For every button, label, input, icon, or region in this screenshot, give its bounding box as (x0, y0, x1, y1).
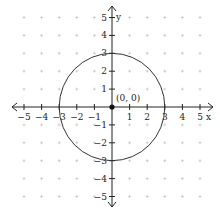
x-tick-label: 1 (127, 112, 133, 122)
grid-dot (75, 195, 78, 198)
y-tick-label: 5 (101, 13, 107, 23)
grid-dot (40, 141, 43, 144)
grid-dot (23, 141, 26, 144)
grid-dot (75, 123, 78, 126)
y-tick-label: −4 (94, 174, 108, 184)
y-tick-label: 4 (101, 30, 107, 40)
grid-dot (75, 141, 78, 144)
grid-dot (146, 34, 149, 37)
grid-dot (75, 88, 78, 91)
grid-dot (40, 88, 43, 91)
grid-dot (181, 177, 184, 180)
grid-dot (93, 52, 96, 55)
grid-dot (199, 177, 202, 180)
grid-dot (128, 177, 131, 180)
grid-dot (181, 16, 184, 19)
grid-dot (146, 52, 149, 55)
grid-dot (58, 70, 61, 73)
grid-dot (40, 52, 43, 55)
grid-dot (199, 123, 202, 126)
grid-dot (181, 34, 184, 37)
grid-dot (199, 195, 202, 198)
coordinate-plane: −5−4−3−2−112345−5−4−3−2−112345 (0, 0) x … (0, 0, 220, 210)
grid-dot (146, 159, 149, 162)
grid-dot (93, 16, 96, 19)
grid-dot (199, 70, 202, 73)
center-point-label: (0, 0) (116, 93, 140, 103)
grid-dot (23, 195, 26, 198)
grid-dot (146, 177, 149, 180)
x-tick-label: 4 (180, 112, 186, 122)
center-point (109, 104, 114, 109)
grid-dot (181, 195, 184, 198)
grid-dot (199, 159, 202, 162)
grid-dot (75, 70, 78, 73)
grid-dot (40, 159, 43, 162)
grid-dot (128, 16, 131, 19)
grid-dot (40, 123, 43, 126)
grid-dot (93, 34, 96, 37)
grid-dot (181, 52, 184, 55)
grid-dot (58, 159, 61, 162)
grid-dot (23, 177, 26, 180)
grid-dot (58, 195, 61, 198)
grid-dot (163, 88, 166, 91)
grid-dot (146, 123, 149, 126)
grid-dot (58, 88, 61, 91)
grid-dot (75, 16, 78, 19)
grid-dot (146, 141, 149, 144)
x-axis-label: x (206, 112, 211, 122)
grid-dot (23, 70, 26, 73)
grid-dot (163, 195, 166, 198)
grid-dot (199, 88, 202, 91)
grid-dot (93, 70, 96, 73)
grid-dot (23, 52, 26, 55)
grid-dot (163, 52, 166, 55)
grid-dot (199, 141, 202, 144)
grid-dot (199, 34, 202, 37)
grid-dot (163, 16, 166, 19)
grid-dot (75, 34, 78, 37)
x-tick-label: −2 (70, 112, 83, 122)
grid-dot (128, 141, 131, 144)
grid-dot (128, 88, 131, 91)
x-tick-label: 2 (144, 112, 150, 122)
grid-dot (199, 16, 202, 19)
grid-dot (23, 16, 26, 19)
grid-dot (163, 34, 166, 37)
x-tick-label: 5 (197, 112, 203, 122)
grid-dot (93, 88, 96, 91)
grid-dot (146, 70, 149, 73)
grid-dot (23, 159, 26, 162)
grid-dot (40, 177, 43, 180)
grid-dot (163, 123, 166, 126)
grid-dot (181, 141, 184, 144)
x-tick-label: −4 (35, 112, 49, 122)
grid-dot (75, 52, 78, 55)
grid-dot (181, 159, 184, 162)
grid-dot (181, 123, 184, 126)
grid-dot (199, 52, 202, 55)
grid-dot (163, 159, 166, 162)
grid-dot (58, 123, 61, 126)
grid-dot (163, 177, 166, 180)
y-tick-label: −5 (94, 192, 108, 202)
grid-dot (181, 88, 184, 91)
grid-dot (75, 177, 78, 180)
grid-dot (23, 123, 26, 126)
grid-dot (128, 52, 131, 55)
grid-dot (163, 141, 166, 144)
y-tick-label: −2 (94, 138, 107, 148)
x-tick-label: −5 (17, 112, 31, 122)
grid-dot (58, 16, 61, 19)
grid-dot (128, 123, 131, 126)
grid-dot (128, 34, 131, 37)
grid-dot (75, 159, 78, 162)
grid-dot (40, 70, 43, 73)
y-tick-label: 1 (101, 84, 107, 94)
grid-dot (58, 141, 61, 144)
grid-dot (58, 34, 61, 37)
grid-dot (146, 195, 149, 198)
grid-dot (128, 159, 131, 162)
grid-dot (40, 34, 43, 37)
